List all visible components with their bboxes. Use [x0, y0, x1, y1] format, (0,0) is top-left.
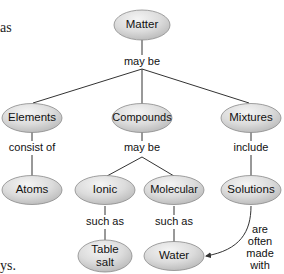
node-mixtures: Mixtures [221, 104, 281, 133]
node-label-water: Water [159, 249, 189, 261]
edge-to-mixtures [142, 69, 249, 103]
node-atoms: Atoms [2, 176, 62, 205]
node-solutions: Solutions [221, 176, 281, 205]
side-text-bottom: ys. [0, 258, 16, 273]
node-molecular: Molecular [144, 176, 204, 205]
link-label-include: include [234, 141, 269, 153]
node-label-solutions: Solutions [227, 183, 275, 195]
link-label-consist-of: consist of [9, 141, 56, 153]
node-label-table-salt-line2: salt [96, 256, 115, 268]
edge-to-ionic [107, 157, 142, 176]
node-compounds: Compounds [112, 104, 172, 133]
node-ionic: Ionic [75, 176, 135, 205]
link-label-are-often-made-with: are often made with [246, 223, 274, 271]
node-label-mixtures: Mixtures [229, 111, 273, 123]
node-label-compounds: Compounds [112, 111, 172, 123]
node-water: Water [144, 242, 204, 271]
node-label-molecular: Molecular [150, 183, 198, 195]
node-label-table-salt-line1: Table [91, 243, 119, 255]
link-label-matter-may-be: may be [124, 55, 160, 67]
svg-text:often: often [248, 235, 272, 247]
node-matter: Matter [114, 10, 170, 40]
svg-text:are: are [252, 223, 268, 235]
node-label-elements: Elements [8, 111, 56, 123]
node-label-matter: Matter [126, 18, 159, 30]
node-label-ionic: Ionic [93, 183, 118, 195]
link-label-molecular-such-as: such as [155, 215, 193, 227]
node-table-salt: Table salt [78, 240, 132, 272]
link-label-ionic-such-as: such as [86, 215, 124, 227]
edge-to-molecular [142, 157, 174, 176]
link-label-compounds-may-be: may be [124, 141, 160, 153]
edge-to-elements [33, 69, 142, 103]
side-text-top: as [0, 20, 12, 35]
node-label-atoms: Atoms [16, 183, 49, 195]
node-elements: Elements [2, 104, 62, 133]
edge-solutions-to-water [206, 206, 251, 256]
svg-text:with: with [249, 259, 270, 271]
concept-map-matter: as ys. Matter Elements Compounds Mixtu [0, 0, 284, 274]
svg-text:made: made [246, 247, 274, 259]
